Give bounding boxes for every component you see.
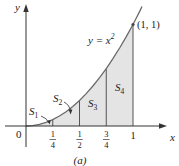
tick-three-quarter: 3 4 xyxy=(103,129,110,150)
svg-text:1: 1 xyxy=(51,129,55,139)
tick-one: 1 xyxy=(130,130,135,141)
figure-caption: (a) xyxy=(74,154,87,166)
area-under-parabola-figure: y x 0 1 4 1 2 3 4 1 y = x2 (1, 1) S1 S2 xyxy=(0,0,179,166)
region-label-s1: S1 xyxy=(29,105,39,120)
svg-text:3: 3 xyxy=(104,129,108,139)
curve-equation-label: y = x2 xyxy=(87,32,115,46)
region-label-s2: S2 xyxy=(53,92,63,107)
tick-quarter: 1 4 xyxy=(50,129,57,150)
svg-text:2: 2 xyxy=(77,140,81,150)
x-axis-label: x xyxy=(169,131,175,143)
point-label: (1, 1) xyxy=(137,19,160,31)
y-axis-arrow-icon xyxy=(23,4,28,12)
tick-half: 1 2 xyxy=(76,129,82,150)
svg-text:1: 1 xyxy=(77,129,81,139)
y-axis-label: y xyxy=(14,1,20,13)
svg-text:4: 4 xyxy=(51,140,56,150)
point-1-1 xyxy=(131,23,134,26)
origin-label: 0 xyxy=(16,128,22,140)
x-axis-arrow-icon xyxy=(159,123,167,128)
svg-text:4: 4 xyxy=(104,140,109,150)
